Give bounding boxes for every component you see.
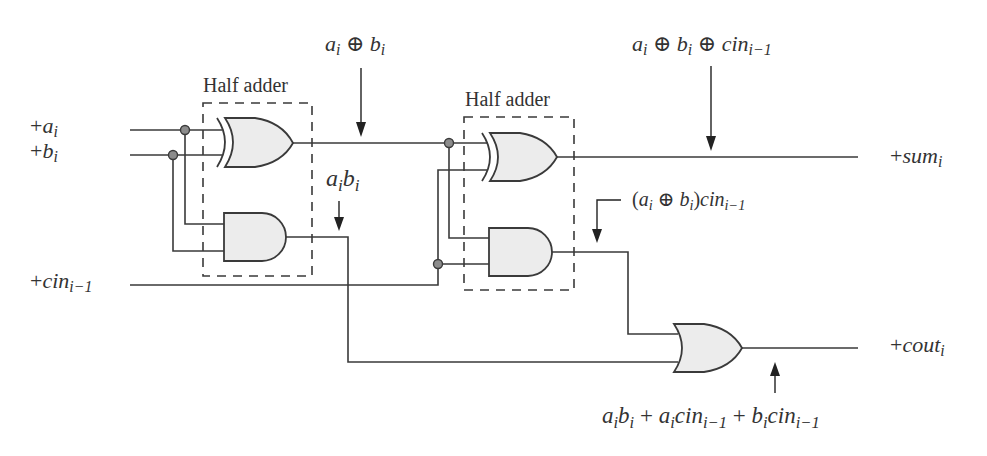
xor-gate-2 [482,133,557,181]
output-label-sum: +sumi [890,145,942,167]
arrow-xor1 [356,68,366,137]
junction-dot [445,139,454,148]
wire-a-xor-b [293,143,489,238]
half-adder-1 [203,103,312,276]
junction-dot [169,151,178,160]
annotation-and2: (ai ⊕ bi)cini−1 [632,189,745,209]
junction-dot [181,126,190,135]
arrow-cout [770,362,780,393]
input-wire-b [130,155,224,251]
and-gate-2 [489,228,552,276]
annotation-sum: ai ⊕ bi ⊕ cini−1 [632,33,772,55]
or-gate [674,324,742,372]
input-label-a: +ai [30,115,58,137]
xor-gate-1 [217,118,293,167]
input-wire-a [130,130,224,224]
arrow-sum [706,66,716,151]
input-label-cin: +cini−1 [30,270,92,292]
annotation-xor1: ai ⊕ bi [325,33,385,55]
and-gate-1 [224,213,286,261]
arrow-and1 [334,201,344,231]
half-adder-2-label: Half adder [465,89,550,109]
arrow-and2 [592,200,621,243]
annotation-and1: aibi [326,166,360,190]
wire-and2-out [552,252,678,334]
half-adder-1-label: Half adder [203,75,288,95]
wire-a-and-b [286,237,678,362]
output-label-cout: +couti [890,334,945,356]
circuit-schematic [0,0,987,456]
input-label-b: +bi [30,140,58,162]
full-adder-diagram: Half adder Half adder +ai +bi +cini−1 +s… [0,0,987,456]
junction-dot [434,260,443,269]
annotation-cout: aibi + aicini−1 + bicini−1 [602,404,820,427]
